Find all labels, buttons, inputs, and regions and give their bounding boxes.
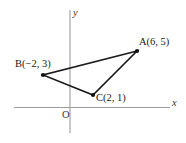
vertex-point-b bbox=[41, 73, 45, 77]
geometry-canvas bbox=[0, 0, 186, 143]
triangle-abc-shape bbox=[43, 51, 137, 95]
x-axis-label: x bbox=[172, 98, 177, 109]
vertex-label-a: A(6, 5) bbox=[139, 37, 169, 48]
vertex-label-c: C(2, 1) bbox=[96, 93, 126, 104]
origin-label: O bbox=[62, 110, 70, 121]
vertex-point-a bbox=[135, 49, 139, 53]
y-axis-label: y bbox=[73, 8, 78, 19]
coordinate-plane-figure: A(6, 5) B(−2, 3) C(2, 1) x y O bbox=[0, 0, 186, 143]
vertex-label-b: B(−2, 3) bbox=[15, 59, 51, 70]
vertex-point-c bbox=[91, 93, 95, 97]
